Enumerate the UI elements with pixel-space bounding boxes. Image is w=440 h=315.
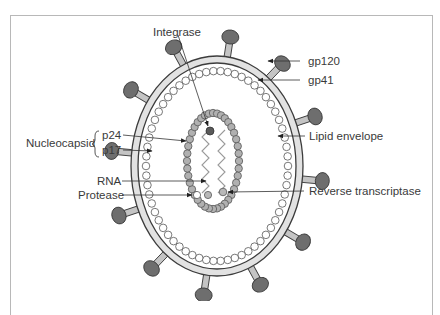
capsid-bead [184, 150, 191, 157]
matrix-bead [278, 200, 286, 208]
label-gp41: gp41 [308, 74, 334, 86]
matrix-bead [231, 254, 239, 262]
matrix-bead [251, 82, 259, 90]
label-gp120: gp120 [308, 55, 340, 67]
matrix-bead [155, 216, 163, 224]
matrix-bead [278, 125, 286, 133]
matrix-bead [176, 243, 184, 251]
capsid-bead [235, 157, 242, 164]
matrix-bead [164, 93, 172, 101]
matrix-bead [262, 93, 270, 101]
matrix-bead [281, 191, 289, 199]
matrix-bead [283, 143, 291, 151]
nucleocapsid-brace [92, 131, 99, 157]
matrix-bead [195, 70, 203, 78]
matrix-bead [148, 200, 156, 208]
matrix-bead [195, 254, 203, 262]
matrix-bead [144, 143, 152, 151]
matrix-bead [170, 87, 178, 95]
matrix-bead [271, 108, 279, 116]
matrix-bead [148, 125, 156, 133]
matrix-bead [142, 162, 150, 170]
label-integrase: Integrase [153, 26, 201, 38]
gp120-head [221, 29, 240, 45]
matrix-bead [143, 172, 151, 180]
protease-particle-1 [193, 191, 200, 198]
matrix-bead [257, 237, 265, 245]
matrix-bead [267, 224, 275, 232]
integrase-particle [206, 127, 214, 135]
matrix-bead [224, 68, 232, 76]
matrix-bead [231, 70, 239, 78]
matrix-bead [257, 87, 265, 95]
matrix-bead [155, 108, 163, 116]
capsid-bead [234, 142, 241, 149]
matrix-bead [283, 181, 291, 189]
matrix-bead [284, 172, 292, 180]
matrix-bead [143, 153, 151, 161]
matrix-bead [284, 153, 292, 161]
capsid-bead [186, 179, 193, 186]
matrix-bead [281, 134, 289, 142]
capsid-bead [185, 142, 192, 149]
matrix-bead [262, 231, 270, 239]
matrix-bead [271, 216, 279, 224]
gp120-head [306, 106, 325, 127]
matrix-bead [238, 251, 246, 259]
matrix-bead [217, 257, 225, 265]
matrix-bead [210, 67, 218, 75]
capsid-bead [184, 165, 191, 172]
label-p17: p17 [102, 144, 121, 156]
gp120-head [110, 205, 129, 226]
label-p24: p24 [102, 129, 122, 141]
reverse-transcriptase-particle [219, 188, 227, 196]
matrix-bead [164, 231, 172, 239]
matrix-bead [145, 191, 153, 199]
matrix-bead [159, 224, 167, 232]
envelope-inner-edge [138, 63, 296, 269]
capsid-bead [183, 157, 190, 164]
label-protease: Protease [78, 189, 124, 201]
matrix-bead [210, 257, 218, 265]
matrix-bead [159, 100, 167, 108]
gp120-head [194, 287, 213, 301]
capsid-bead [235, 165, 242, 172]
matrix-bead [284, 162, 292, 170]
capsid-bead [232, 136, 239, 143]
matrix-bead [224, 256, 232, 264]
matrix-bead [275, 208, 283, 216]
matrix-bead [202, 256, 210, 264]
capsid-bead [235, 150, 242, 157]
matrix-bead [144, 181, 152, 189]
label-rna: RNA [97, 175, 122, 187]
label-reverse-transcriptase: Reverse transcriptase [309, 185, 421, 197]
label-lipid-envelope: Lipid envelope [309, 130, 383, 142]
matrix-bead [170, 237, 178, 245]
capsid-bead [185, 172, 192, 179]
matrix-bead [275, 116, 283, 124]
matrix-bead [217, 67, 225, 75]
protease-particle-2 [204, 191, 211, 198]
matrix-bead [202, 68, 210, 76]
label-nucleocapsid: Nucleocapsid [26, 137, 95, 149]
matrix-bead [151, 116, 159, 124]
matrix-bead [151, 208, 159, 216]
capsid-bead [234, 172, 241, 179]
matrix-bead [267, 100, 275, 108]
